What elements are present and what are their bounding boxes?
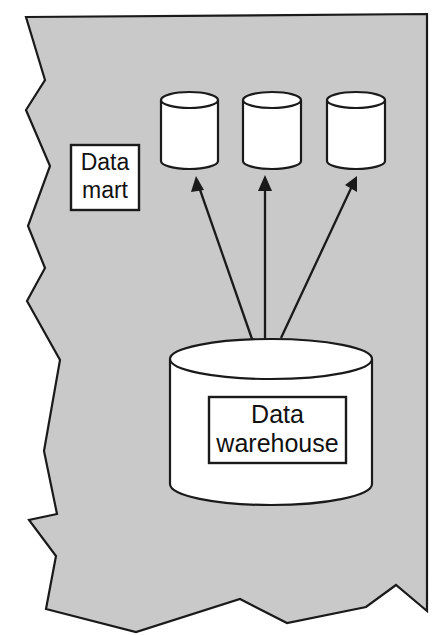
data-mart-label-line1: Data	[81, 149, 130, 175]
data-mart-label-line2: mart	[82, 177, 129, 203]
data-warehouse-label-box: Data warehouse	[209, 397, 346, 463]
data-mart-cylinder-3[interactable]	[327, 92, 385, 169]
data-warehouse-label-line1: Data	[251, 400, 304, 428]
diagram-canvas: Data mart Data warehouse	[0, 0, 444, 635]
data-warehouse-diagram: Data mart Data warehouse	[0, 0, 444, 635]
data-mart-cylinder-2[interactable]	[243, 92, 301, 169]
data-warehouse-label-line2: warehouse	[215, 429, 338, 457]
data-mart-cylinder-1[interactable]	[161, 92, 218, 169]
data-mart-label-box: Data mart	[71, 145, 139, 210]
